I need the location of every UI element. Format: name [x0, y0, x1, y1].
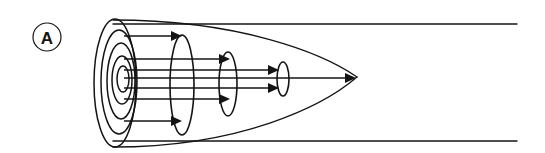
panel-label-letter: A — [41, 29, 53, 48]
figure-panel-a: A — [0, 0, 545, 153]
canvas-background — [0, 0, 545, 153]
diagram-canvas: A — [0, 0, 545, 153]
